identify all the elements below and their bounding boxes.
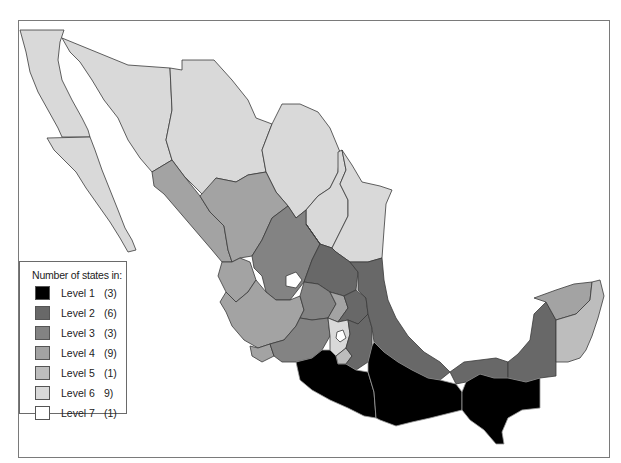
- legend-label: Level 5: [61, 367, 95, 379]
- legend-item-level-6: Level 6 9): [35, 386, 125, 402]
- legend-item-level-7: Level 7 (1): [35, 406, 125, 422]
- state-baja-california-sur: [47, 137, 136, 252]
- legend-label: Level 1: [61, 287, 95, 299]
- legend-item-level-4: Level 4 (9): [35, 346, 125, 362]
- legend-count: (3): [104, 327, 117, 339]
- legend-swatch-level-7: [35, 406, 50, 420]
- legend-count: 9): [104, 387, 113, 399]
- legend-item-level-2: Level 2 (6): [35, 306, 125, 322]
- legend-swatch-level-3: [35, 326, 50, 340]
- legend-item-level-5: Level 5 (1): [35, 366, 125, 382]
- legend-count: (9): [104, 347, 117, 359]
- state-chiapas: [462, 374, 540, 444]
- legend-count: (1): [104, 407, 117, 419]
- legend-label: Level 7: [61, 407, 95, 419]
- legend-swatch-level-5: [35, 366, 50, 380]
- legend-swatch-level-1: [35, 286, 50, 300]
- map-legend: Number of states in: Level 1 (3) Level 2…: [19, 261, 127, 414]
- legend-label: Level 2: [61, 307, 95, 319]
- state-colima: [250, 344, 274, 362]
- legend-count: (6): [104, 307, 117, 319]
- legend-label: Level 3: [61, 327, 95, 339]
- legend-swatch-level-2: [35, 306, 50, 320]
- legend-label: Level 4: [61, 347, 95, 359]
- legend-count: (1): [104, 367, 117, 379]
- legend-item-level-1: Level 1 (3): [35, 286, 125, 302]
- legend-swatch-level-6: [35, 386, 50, 400]
- legend-swatch-level-4: [35, 346, 50, 360]
- legend-count: (3): [104, 287, 117, 299]
- state-campeche: [508, 302, 556, 382]
- legend-title: Number of states in:: [32, 269, 122, 281]
- legend-item-level-3: Level 3 (3): [35, 326, 125, 342]
- legend-label: Level 6: [61, 387, 95, 399]
